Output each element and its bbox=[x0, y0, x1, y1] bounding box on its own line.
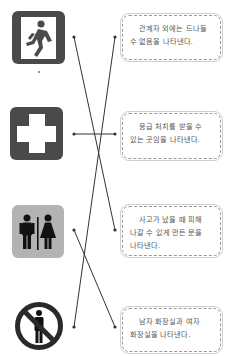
description-box-3: 사고가 났을 때 피해 나갈 수 있게 만든 문을 나타낸다. bbox=[122, 206, 221, 256]
right-dot-2 bbox=[113, 132, 116, 135]
line-wc-to-desc4 bbox=[74, 230, 115, 327]
description-text-4: 남자 화장실과 여자 화장실을 나타낸다. bbox=[130, 315, 213, 341]
description-text-3: 사고가 났을 때 피해 나갈 수 있게 만든 문을 나타낸다. bbox=[130, 213, 213, 252]
line-noentry-to-desc1 bbox=[74, 37, 115, 327]
left-dot-3 bbox=[72, 228, 75, 231]
description-box-2: 응급 처치를 받을 수 있는 곳임을 나타낸다. bbox=[122, 113, 221, 159]
right-dot-1 bbox=[113, 35, 116, 38]
left-dot-1 bbox=[72, 35, 75, 38]
left-dot-4 bbox=[72, 325, 75, 328]
description-box-4: 남자 화장실과 여자 화장실을 나타낸다. bbox=[122, 308, 221, 352]
left-dot-2 bbox=[72, 132, 75, 135]
description-box-1: 관계자 외에는 드나들 수 없음을 나타낸다. bbox=[122, 15, 221, 60]
description-text-1: 관계자 외에는 드나들 수 없음을 나타낸다. bbox=[130, 22, 213, 48]
right-dot-3 bbox=[113, 228, 116, 231]
description-text-2: 응급 처치를 받을 수 있는 곳임을 나타낸다. bbox=[130, 120, 213, 146]
right-dot-4 bbox=[113, 325, 116, 328]
